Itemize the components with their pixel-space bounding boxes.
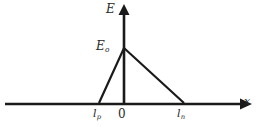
right-edge-label: ln (177, 108, 185, 119)
peak-field-subscript: o (105, 45, 109, 54)
x-axis-label: x (244, 96, 250, 107)
field-profile-figure: E Eo x lp 0 ln (0, 0, 258, 127)
peak-field-symbol: E (96, 39, 105, 53)
y-axis-label: E (106, 3, 115, 15)
right-edge-symbol: l (177, 107, 181, 120)
figure-canvas (0, 0, 258, 127)
left-edge-symbol: l (93, 107, 97, 120)
left-edge-subscript: p (97, 113, 101, 121)
right-edge-subscript: n (181, 113, 185, 121)
y-axis-arrowhead (119, 4, 130, 15)
origin-label: 0 (118, 108, 126, 120)
field-profile-curve (99, 48, 184, 103)
left-edge-label: lp (93, 108, 101, 119)
peak-field-label: Eo (96, 40, 109, 52)
